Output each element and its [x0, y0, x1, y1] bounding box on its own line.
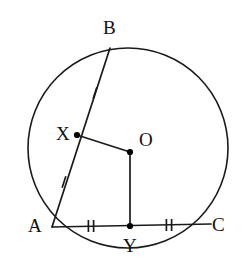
point-dot-y	[127, 223, 133, 229]
vertex-label-x: X	[56, 124, 70, 143]
point-dot-o	[127, 149, 133, 155]
vertex-label-c: C	[212, 215, 225, 234]
vertex-label-y: Y	[123, 236, 137, 255]
vertex-label-o: O	[139, 130, 153, 149]
geometry-figure: BXOAYC	[0, 0, 247, 263]
vertex-label-b: B	[103, 18, 116, 37]
vertex-label-a: A	[28, 216, 42, 235]
segment-ox	[77, 135, 130, 152]
circle-outline	[28, 48, 228, 248]
point-dot-x	[74, 132, 80, 138]
